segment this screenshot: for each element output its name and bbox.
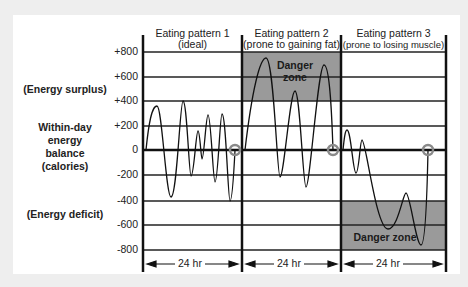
ytick-minus-400: -400 — [98, 194, 138, 206]
balance-label: balance — [20, 147, 110, 159]
danger-word: Danger — [270, 59, 320, 71]
zone-word: zone — [270, 71, 320, 83]
pattern-3-subtitle: (prone to losing muscle) — [341, 39, 446, 50]
pattern-2-subtitle: (prone to gaining fat) — [242, 39, 341, 50]
duration-label-pattern-2: 24 hr — [274, 257, 304, 269]
pattern-1-header: Eating pattern 1 (ideal) — [143, 28, 242, 50]
within-day-label: Within-day — [20, 121, 110, 133]
pattern-1-subtitle: (ideal) — [143, 39, 242, 50]
ytick-800: +800 — [98, 45, 138, 57]
danger-zone-label-pattern-2: Danger zone — [270, 59, 320, 83]
pattern-2-header: Eating pattern 2 (prone to gaining fat) — [242, 28, 341, 50]
calories-label: (calories) — [20, 160, 110, 172]
pattern-3-header: Eating pattern 3 (prone to losing muscle… — [341, 28, 446, 50]
ytick-600: +600 — [98, 70, 138, 82]
energy-label: energy — [20, 134, 110, 146]
pattern-3-title: Eating pattern 3 — [341, 28, 446, 39]
ytick-400: +400 — [98, 94, 138, 106]
energy-surplus-label: (Energy surplus) — [20, 83, 110, 95]
danger-zone-label-pattern-3: Danger zone — [345, 231, 425, 243]
energy-deficit-label: (Energy deficit) — [20, 208, 110, 220]
ytick-minus-800: -800 — [98, 243, 138, 255]
duration-label-pattern-1: 24 hr — [175, 257, 205, 269]
duration-label-pattern-3: 24 hr — [373, 257, 403, 269]
